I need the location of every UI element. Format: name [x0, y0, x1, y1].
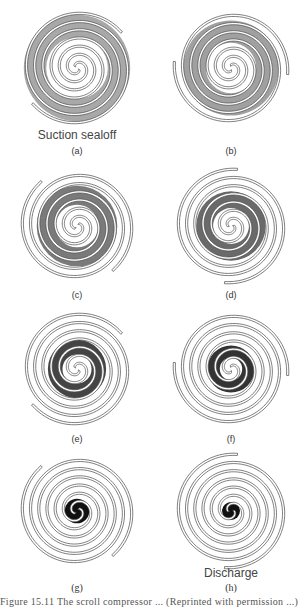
scroll-spiral-e-icon [0, 301, 154, 441]
scroll-spiral-c-icon [0, 158, 154, 298]
scroll-spiral-a-icon [0, 0, 154, 140]
annotation-suction-sealoff: Suction sealoff [0, 128, 154, 142]
panel-h [154, 443, 308, 583]
panel-label-g: (g) [0, 582, 154, 593]
panel-label-h: (h) [154, 582, 308, 593]
panel-label-c: (c) [0, 290, 154, 300]
scroll-spiral-b-icon [154, 0, 308, 140]
panel-label-d: (d) [154, 290, 308, 300]
panel-c [0, 158, 154, 298]
panel-e [0, 301, 154, 441]
scroll-spiral-g-icon [0, 443, 154, 583]
panel-f [154, 301, 308, 441]
panel-d [154, 158, 308, 298]
panel-label-a: (a) [0, 146, 154, 156]
figure-caption: Figure 15.11 The scroll compressor ... (… [0, 596, 308, 607]
scroll-spiral-h-icon [154, 443, 308, 583]
scroll-spiral-d-icon [154, 158, 308, 298]
panel-label-b: (b) [154, 146, 308, 156]
annotation-discharge: Discharge [154, 566, 308, 580]
panel-b [154, 0, 308, 160]
panel-g [0, 443, 154, 583]
scroll-spiral-f-icon [154, 301, 308, 441]
